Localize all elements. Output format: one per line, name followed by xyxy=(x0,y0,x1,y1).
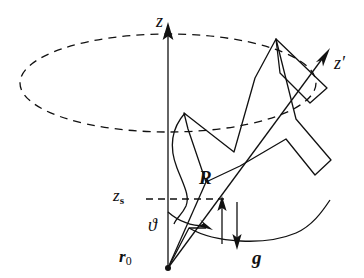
zs-subscript: s xyxy=(120,194,124,206)
zs-letter: z xyxy=(113,186,120,205)
body-outline-bottom-curve xyxy=(189,200,330,241)
z-prime-mark: ′ xyxy=(341,53,345,73)
body-outline-main xyxy=(184,39,331,182)
theta-angle-arc xyxy=(168,212,205,226)
r0-letter: r xyxy=(119,247,126,266)
r0-label: r0 xyxy=(119,248,132,265)
body-outline-left-curve xyxy=(172,113,187,224)
R-vector-label: R xyxy=(199,168,212,187)
theta-label: ϑ xyxy=(148,216,157,234)
diagram-canvas xyxy=(0,0,364,278)
z-prime-axis-label: z′ xyxy=(334,54,345,72)
origin-point xyxy=(165,265,171,271)
zs-label: zs xyxy=(113,187,124,204)
r0-subscript: 0 xyxy=(126,254,132,268)
g-vector-label: g xyxy=(252,248,262,267)
z-prime-letter: z xyxy=(334,53,341,73)
z-axis-label: z xyxy=(156,12,163,30)
figure-root: z z′ zs ϑ r0 R g xyxy=(0,0,364,278)
